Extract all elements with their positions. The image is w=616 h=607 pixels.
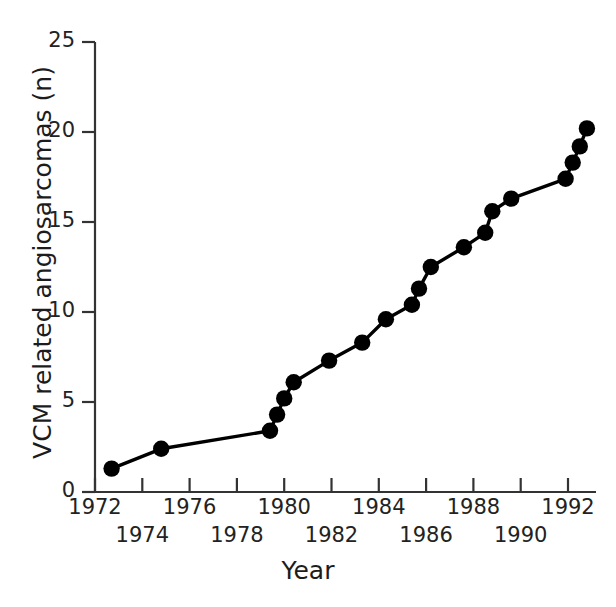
y-axis-title-text: VCM related angiosarcomas (n) [28, 66, 57, 459]
data-point-marker [378, 311, 394, 327]
chart-figure: 0510152025 19721976198019841988199219741… [0, 0, 616, 607]
y-axis-title: VCM related angiosarcomas (n) [28, 33, 57, 493]
data-series-markers [103, 120, 595, 477]
x-axis-tick-label: 1992 [541, 495, 595, 519]
data-point-marker [557, 171, 573, 187]
x-axis-tick-label: 1972 [68, 495, 122, 519]
x-axis-title: Year [0, 556, 616, 585]
x-axis-tick-label: 1988 [446, 495, 500, 519]
x-axis-tick-label: 1984 [352, 495, 406, 519]
data-point-marker [565, 154, 581, 170]
data-point-marker [276, 390, 292, 406]
data-point-marker [423, 259, 439, 275]
series-line [112, 128, 587, 468]
data-point-marker [354, 334, 370, 350]
x-axis-tick-label: 1978 [210, 523, 264, 547]
data-point-marker [579, 120, 595, 136]
data-point-marker [503, 190, 519, 206]
data-point-marker [411, 280, 427, 296]
data-point-marker [477, 225, 493, 241]
data-series-line [112, 128, 587, 468]
data-point-marker [262, 423, 278, 439]
data-point-marker [103, 460, 119, 476]
data-point-marker [484, 203, 500, 219]
x-axis-tick-label: 1976 [163, 495, 217, 519]
x-axis-tick-label: 1974 [115, 523, 169, 547]
x-axis-tick-label: 1982 [305, 523, 359, 547]
data-point-marker [286, 374, 302, 390]
data-point-marker [153, 441, 169, 457]
y-axis-ticks [82, 42, 95, 492]
data-point-marker [321, 352, 337, 368]
data-point-marker [456, 239, 472, 255]
x-axis-tick-label: 1990 [494, 523, 548, 547]
data-point-marker [269, 406, 285, 422]
data-point-marker [404, 297, 420, 313]
x-axis-tick-label: 1980 [257, 495, 311, 519]
x-axis-tick-label: 1986 [399, 523, 453, 547]
x-axis-ticks [95, 478, 568, 492]
data-point-marker [572, 138, 588, 154]
axes [95, 42, 596, 492]
